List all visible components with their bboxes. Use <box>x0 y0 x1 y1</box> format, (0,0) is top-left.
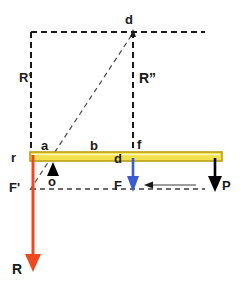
label-R: R <box>12 261 22 277</box>
label-F: F <box>114 178 122 193</box>
label-R-prime: R' <box>19 70 31 85</box>
load-arrow-P-head <box>208 176 222 192</box>
label-d-top: d <box>125 12 133 27</box>
horizontal-pull-arrow-head <box>144 182 153 189</box>
label-f: f <box>137 137 142 152</box>
label-P: P <box>222 178 231 193</box>
label-R-double-prime: R” <box>139 70 156 86</box>
force-diagram-figure: d R' R” a b f r d o F' F P R <box>0 0 241 289</box>
label-a: a <box>41 138 49 153</box>
force-diagram-canvas: d R' R” a b f r d o F' F P R <box>0 0 241 289</box>
label-d-beam: d <box>114 151 122 166</box>
diagonal-construction-line <box>30 33 133 190</box>
label-o: o <box>48 174 56 189</box>
label-b: b <box>90 138 98 153</box>
reaction-arrow-R-head <box>25 254 41 272</box>
force-arrow-F-head <box>127 176 139 192</box>
beam <box>30 152 222 161</box>
label-F-prime: F' <box>9 180 20 195</box>
label-r: r <box>11 150 16 165</box>
